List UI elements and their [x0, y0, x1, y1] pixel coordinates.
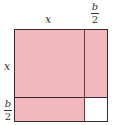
top-x-label: x	[45, 14, 51, 25]
left-b-over-2-label: b 2	[4, 99, 12, 122]
left-x-label: x	[4, 61, 10, 72]
denominator: 2	[5, 112, 11, 122]
square-outline	[14, 29, 108, 122]
numerator: b	[92, 2, 98, 12]
numerator: b	[5, 99, 11, 109]
top-b-over-2-label: b 2	[91, 2, 99, 25]
denominator: 2	[92, 15, 98, 25]
